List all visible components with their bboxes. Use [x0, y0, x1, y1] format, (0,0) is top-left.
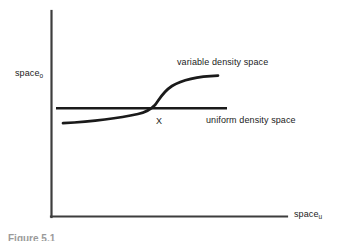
- x-axis-label-text: space: [294, 209, 319, 219]
- variable-density-curve: [63, 76, 218, 124]
- x-axis-label: spaceu: [294, 209, 322, 219]
- y-axis-label-subscript: o: [40, 72, 44, 79]
- x-axis-label-subscript: u: [319, 213, 323, 220]
- y-axis-label: spaceo: [15, 68, 43, 78]
- y-axis-label-text: space: [15, 68, 40, 78]
- figure-container: spaceo spaceu variable density space uni…: [0, 0, 339, 241]
- uniform-density-space-label: uniform density space: [206, 115, 296, 125]
- figure-caption: Figure 5.1: [8, 233, 55, 241]
- variable-density-space-label: variable density space: [177, 57, 268, 67]
- crossing-point-marker-label: X: [156, 116, 162, 126]
